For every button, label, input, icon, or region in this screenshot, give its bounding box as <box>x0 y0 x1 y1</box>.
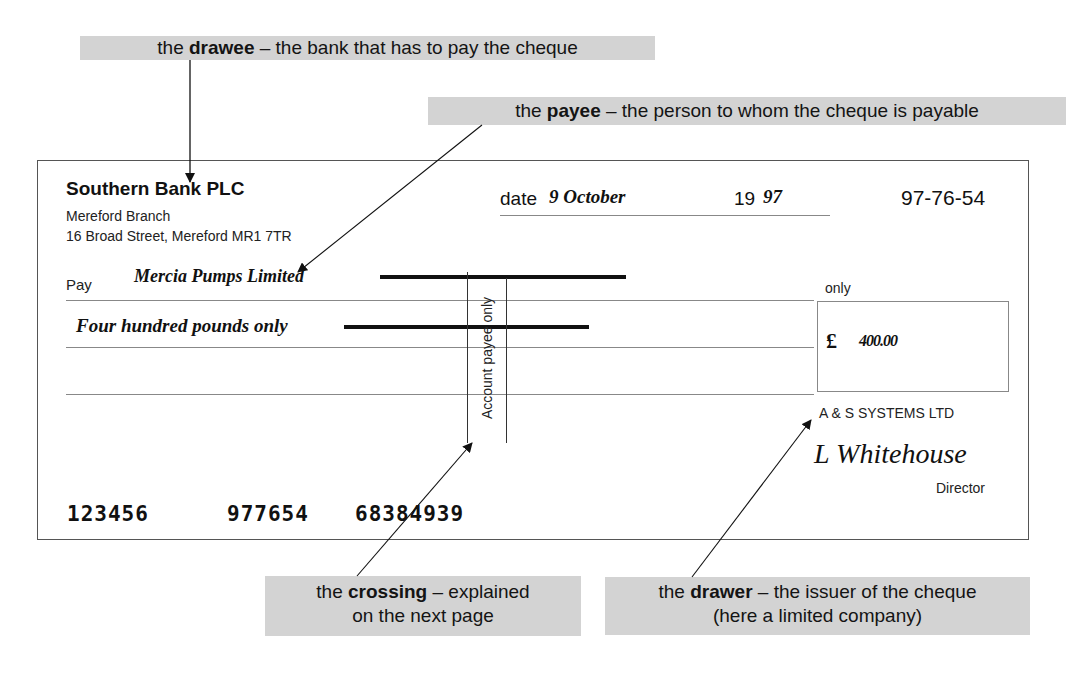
crossing-annotation: the crossing – explained on the next pag… <box>265 576 581 636</box>
bank-address: 16 Broad Street, Mereford MR1 7TR <box>66 228 292 244</box>
currency-symbol: £ <box>826 328 837 354</box>
drawer-description: – the issuer of the cheque <box>753 581 977 602</box>
payee-term: payee <box>547 100 601 121</box>
year-value: 97 <box>763 186 782 208</box>
drawee-prefix: the <box>157 37 189 58</box>
payee-annotation: the payee – the person to whom the chequ… <box>428 97 1066 125</box>
drawee-annotation: the drawee – the bank that has to pay th… <box>80 36 655 60</box>
signatory-title: Director <box>936 480 985 496</box>
signature: L Whitehouse <box>814 438 967 470</box>
crossing-line2: on the next page <box>265 604 581 628</box>
branch-code: 977654 <box>227 502 309 526</box>
drawer-line2: (here a limited company) <box>605 604 1030 628</box>
drawee-description: – the bank that has to pay the cheque <box>254 37 577 58</box>
drawer-line1: the drawer – the issuer of the cheque <box>605 580 1030 604</box>
payee-prefix: the <box>515 100 547 121</box>
amount-in-words: Four hundred pounds only <box>76 315 288 337</box>
payee-strike-line <box>380 275 626 279</box>
drawer-prefix: the <box>659 581 691 602</box>
crossing-prefix: the <box>316 581 348 602</box>
crossing-left-line <box>467 272 468 443</box>
crossing-description: – explained <box>427 581 529 602</box>
bank-branch: Mereford Branch <box>66 208 170 224</box>
bank-name: Southern Bank PLC <box>66 178 244 200</box>
payee-description: – the person to whom the cheque is payab… <box>601 100 979 121</box>
date-value: 9 October <box>549 186 626 208</box>
amount-box <box>817 301 1009 392</box>
crossing-right-line <box>506 278 507 443</box>
pay-label: Pay <box>66 276 92 293</box>
amount-figures: 400.00 <box>859 332 897 350</box>
account-number: 68384939 <box>355 502 464 526</box>
drawee-term: drawee <box>189 37 254 58</box>
only-label: only <box>825 280 851 296</box>
year-prefix: 19 <box>734 188 755 210</box>
crossing-text: Account payee only <box>479 297 495 419</box>
payee-name: Mercia Pumps Limited <box>134 266 304 287</box>
cheque-number: 123456 <box>67 502 149 526</box>
drawer-term: drawer <box>690 581 752 602</box>
date-rule <box>500 215 830 216</box>
company-name: A & S SYSTEMS LTD <box>819 405 954 421</box>
crossing-line1: the crossing – explained <box>265 580 581 604</box>
date-label: date <box>500 188 537 210</box>
payee-rule <box>66 300 814 301</box>
drawer-annotation: the drawer – the issuer of the cheque (h… <box>605 577 1030 635</box>
sort-code: 97-76-54 <box>901 186 985 210</box>
crossing-term: crossing <box>348 581 427 602</box>
amount-rule-2 <box>66 394 814 395</box>
amount-rule-1 <box>66 347 814 348</box>
